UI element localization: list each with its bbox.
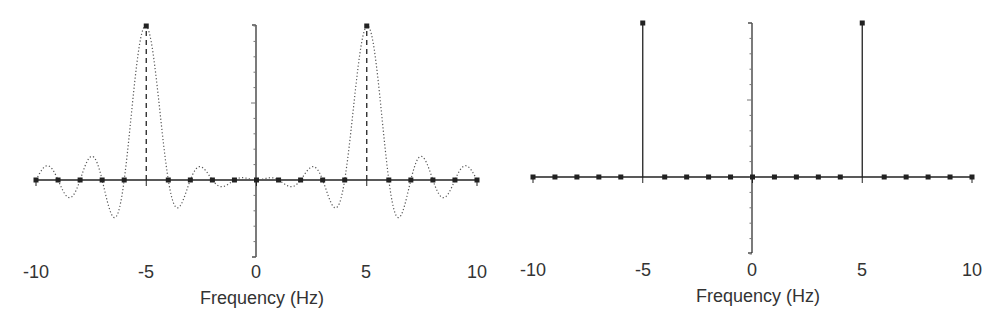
stem-marker xyxy=(298,178,303,183)
x-tick-label: 5 xyxy=(361,262,371,283)
stem-marker xyxy=(948,175,953,180)
x-tick-label: 0 xyxy=(251,262,261,283)
stem-marker xyxy=(904,175,909,180)
left-chart-panel: -10 -5 0 5 10 Frequency (Hz) xyxy=(0,0,500,324)
stem-marker xyxy=(816,175,821,180)
stem-marker xyxy=(386,178,391,183)
stem-marker xyxy=(772,175,777,180)
x-tick-label: -10 xyxy=(23,262,49,283)
stem-marker xyxy=(794,175,799,180)
stem-marker xyxy=(838,175,843,180)
stem-marker xyxy=(452,178,457,183)
stem-marker xyxy=(254,178,259,183)
stem-marker xyxy=(662,175,667,180)
stem-marker xyxy=(706,175,711,180)
x-axis-label: Frequency (Hz) xyxy=(696,286,820,307)
stem-marker xyxy=(34,178,39,183)
stem-marker xyxy=(166,178,171,183)
stem-marker xyxy=(860,21,865,26)
stem-marker xyxy=(210,178,215,183)
stem-marker xyxy=(276,178,281,183)
stem-marker xyxy=(640,21,645,26)
x-tick-label: 10 xyxy=(467,262,487,283)
stem-marker xyxy=(552,175,557,180)
stem-marker xyxy=(926,175,931,180)
x-tick-label: -5 xyxy=(138,262,154,283)
stem-marker xyxy=(100,178,105,183)
stem-marker xyxy=(618,175,623,180)
x-tick-label: 0 xyxy=(747,260,757,281)
stem-marker xyxy=(364,24,369,29)
stem-marker xyxy=(596,175,601,180)
stem-marker xyxy=(728,175,733,180)
stem-marker xyxy=(684,175,689,180)
x-tick-label: -10 xyxy=(520,260,546,281)
stem-marker xyxy=(430,178,435,183)
stem-marker xyxy=(574,175,579,180)
stem-marker xyxy=(970,175,975,180)
stem-marker xyxy=(882,175,887,180)
stem-marker xyxy=(56,178,61,183)
x-axis-label: Frequency (Hz) xyxy=(200,288,324,309)
stem-marker xyxy=(342,178,347,183)
x-tick-label: 5 xyxy=(857,260,867,281)
stem-marker xyxy=(122,178,127,183)
stem-marker xyxy=(320,178,325,183)
stem-marker xyxy=(531,175,536,180)
stem-marker xyxy=(78,178,83,183)
x-tick-label: 10 xyxy=(962,260,982,281)
stem-marker xyxy=(475,178,480,183)
stem-marker xyxy=(750,175,755,180)
stem-marker xyxy=(188,178,193,183)
right-chart-panel: -10 -5 0 5 10 Frequency (Hz) xyxy=(500,0,1005,324)
x-tick-label: -5 xyxy=(635,260,651,281)
stem-marker xyxy=(232,178,237,183)
stem-marker xyxy=(408,178,413,183)
stem-marker xyxy=(144,24,149,29)
